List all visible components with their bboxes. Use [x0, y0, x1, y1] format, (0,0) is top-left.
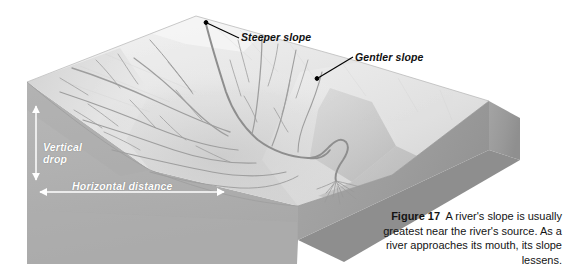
callout-label-gentler-slope: Gentler slope: [355, 51, 423, 63]
callout-label-steeper-slope: Steeper slope: [241, 31, 311, 43]
vertical-drop-line-1: Vertical: [43, 141, 82, 153]
steeper-slope-anchor-dot: [204, 21, 208, 25]
measurement-label-horizontal-distance: Horizontal distance: [72, 181, 173, 193]
vertical-drop-line-2: drop: [43, 153, 67, 165]
gentler-slope-anchor-dot: [315, 77, 319, 81]
measurement-label-vertical-drop: Vertical drop: [43, 142, 105, 165]
figure-number-label: Figure 17: [391, 210, 440, 222]
figure-caption: Figure 17 A river's slope is usually gre…: [365, 209, 562, 267]
figure-container: Steeper slope Gentler slope Vertical dro…: [0, 0, 568, 276]
